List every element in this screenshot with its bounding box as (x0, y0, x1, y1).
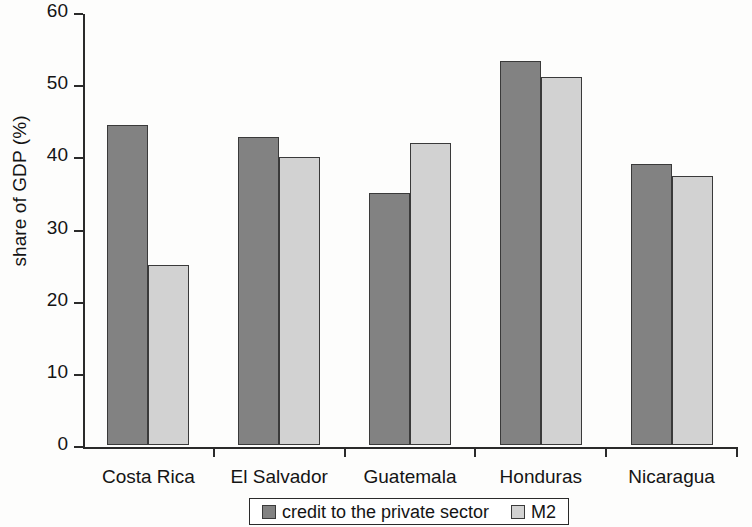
x-axis-tick (605, 447, 607, 457)
bar (500, 61, 541, 445)
bar (238, 137, 279, 445)
y-axis-tick-label: 60 (47, 0, 68, 22)
y-axis-tick: 0 (74, 446, 83, 448)
y-axis-line (83, 14, 85, 448)
bar (107, 125, 148, 445)
x-axis-tick (344, 447, 346, 457)
x-axis-tick (213, 447, 215, 457)
legend-item: M2 (511, 503, 556, 521)
x-axis-tick (474, 447, 476, 457)
y-axis-tick-label: 0 (57, 433, 68, 455)
y-axis-tick: 10 (74, 374, 83, 376)
legend-swatch-icon (262, 505, 276, 519)
plot-area: 0102030405060 Costa RicaEl SalvadorGuate… (83, 14, 737, 447)
y-axis-tick: 60 (74, 13, 83, 15)
x-axis-tick (736, 447, 738, 457)
bar (631, 164, 672, 445)
x-axis-line (83, 447, 737, 449)
legend-swatch-icon (511, 505, 525, 519)
x-axis-category-label: Nicaragua (606, 466, 737, 488)
legend-label: credit to the private sector (282, 503, 489, 521)
y-axis-tick-label: 40 (47, 144, 68, 166)
legend-item: credit to the private sector (262, 503, 489, 521)
bar (672, 176, 713, 445)
y-axis-tick-label: 10 (47, 361, 68, 383)
bar (541, 77, 582, 445)
bar (148, 265, 189, 445)
x-axis-category-label: El Salvador (214, 466, 345, 488)
x-axis-category-label: Costa Rica (83, 466, 214, 488)
y-axis-tick-label: 30 (47, 217, 68, 239)
y-axis-tick: 40 (74, 157, 83, 159)
bar (410, 143, 451, 445)
chart-legend: credit to the private sectorM2 (249, 498, 569, 525)
y-axis-tick: 20 (74, 302, 83, 304)
y-axis-tick: 30 (74, 230, 83, 232)
x-axis-category-label: Honduras (475, 466, 606, 488)
y-axis-tick: 50 (74, 85, 83, 87)
chart-page: share of GDP (%) 0102030405060 Costa Ric… (0, 0, 752, 527)
y-axis-tick-label: 50 (47, 72, 68, 94)
legend-label: M2 (531, 503, 556, 521)
y-axis-tick-label: 20 (47, 289, 68, 311)
y-axis-title: share of GDP (%) (9, 91, 31, 291)
x-axis-category-label: Guatemala (345, 466, 476, 488)
bar (369, 193, 410, 445)
bar (279, 157, 320, 445)
